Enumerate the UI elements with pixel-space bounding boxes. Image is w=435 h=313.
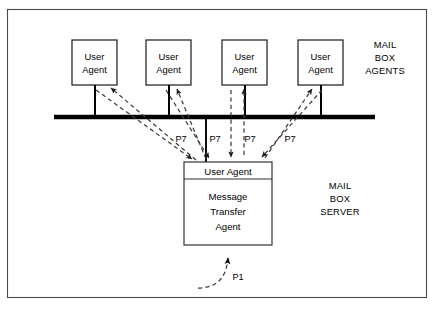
protocol-label-p7-1: P7	[175, 134, 186, 144]
agent-box-3-label-line2: Agent	[232, 64, 257, 75]
agent-box-4[interactable]	[298, 40, 343, 85]
protocol-label-p1: P1	[232, 272, 243, 282]
mailbox-agents-label-line2: BOX	[375, 52, 396, 63]
diagram-frame	[8, 10, 427, 298]
agent-box-3-label-line1: User	[235, 51, 255, 62]
server-mta-label-line2: Transfer	[210, 206, 246, 217]
agent-box-3[interactable]	[222, 40, 267, 85]
mailbox-server-label-line1: MAIL	[329, 180, 352, 191]
agent-box-1-label-line1: User	[85, 51, 105, 62]
mailbox-server-label-line3: SERVER	[320, 206, 360, 217]
mailbox-agents-label-line3: AGENTS	[365, 65, 405, 76]
protocol-label-p7-3: P7	[244, 134, 255, 144]
agent-box-4-label-line2: Agent	[308, 64, 333, 75]
mailbox-agents-label-line1: MAIL	[374, 39, 397, 50]
mailbox-server[interactable]: User Agent Message Transfer Agent	[184, 162, 272, 245]
agent-box-2-label-line1: User	[159, 51, 179, 62]
protocol-label-p7-2: P7	[209, 134, 220, 144]
agent-box-1[interactable]	[72, 40, 117, 85]
mailbox-agent-2[interactable]: User Agent	[146, 40, 191, 85]
server-mta-label-line3: Agent	[215, 221, 240, 232]
mailbox-agent-4[interactable]: User Agent	[298, 40, 343, 85]
server-user-agent-label: User Agent	[204, 166, 252, 177]
mailbox-server-label-line2: BOX	[330, 193, 351, 204]
agent-box-1-label-line2: Agent	[82, 64, 107, 75]
agent-box-2-label-line2: Agent	[156, 64, 181, 75]
mailbox-architecture-diagram: User Agent User Agent User Agent User Ag…	[0, 0, 435, 313]
protocol-label-p7-4: P7	[284, 134, 295, 144]
agent-box-4-label-line1: User	[311, 51, 331, 62]
mailbox-agent-3[interactable]: User Agent	[222, 40, 267, 85]
mailbox-agent-1[interactable]: User Agent	[72, 40, 117, 85]
diagram-canvas: User Agent User Agent User Agent User Ag…	[0, 0, 435, 313]
server-mta-label-line1: Message	[209, 191, 248, 202]
agent-box-2[interactable]	[146, 40, 191, 85]
